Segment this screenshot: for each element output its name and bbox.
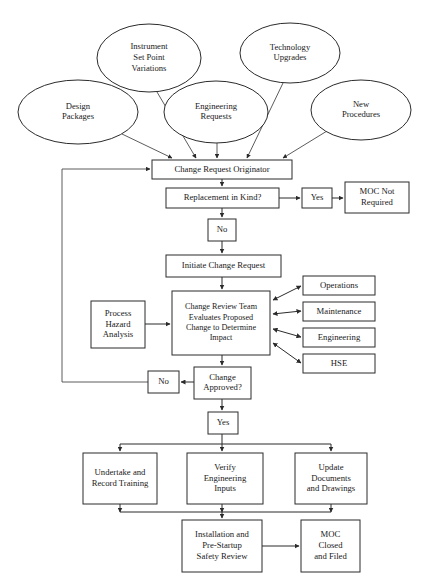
process-node-change-review-team-label: Evaluates Proposed [189,313,253,322]
process-node-update-documents-and-drawings-label: Documents [311,473,351,483]
input-node-new-procedures-label: Procedures [342,109,381,119]
process-node-change-request-originator[interactable]: Change Request Originator [152,160,292,179]
process-node-moc-not-required-label: MOC Not [360,186,396,196]
process-node-engineering[interactable]: Engineering [303,328,375,347]
process-node-process-hazard-analysis-label: Process [105,308,132,318]
process-node-engineering-label: Engineering [318,332,361,342]
input-node-instrument-set-point-variations-label: Set Point [133,52,165,62]
process-node-undertake-and-record-training[interactable]: Undertake andRecord Training [83,453,157,504]
process-node-change-review-team-label: Change to Determine [186,323,256,332]
edge-review-team-hse [273,343,301,363]
process-node-change-review-team[interactable]: Change Review TeamEvaluates ProposedChan… [172,291,270,355]
process-node-change-review-team-label: Change Review Team [185,302,258,311]
input-node-design-packages-label: Design [66,101,91,111]
shapes-layer: DesignPackagesInstrumentSet PointVariati… [18,23,411,572]
edge-design-packages-to-originator [122,134,172,158]
input-node-instrument-set-point-variations[interactable]: InstrumentSet PointVariations [97,24,201,92]
process-node-process-hazard-analysis-label: Hazard [105,319,131,329]
input-node-engineering-requests-label: Engineering [195,101,238,111]
input-node-new-procedures[interactable]: NewProcedures [311,80,411,140]
process-node-initiate-change-request[interactable]: Initiate Change Request [166,255,281,277]
edge-new-procedures-to-originator [283,131,327,158]
process-node-installation-and-pre-startup-safety-review-label: Installation and [195,529,249,539]
input-node-new-procedures-label: New [353,99,370,109]
edge-no-feedback-loop [62,169,150,382]
process-node-verify-engineering-inputs[interactable]: VerifyEngineeringInputs [187,453,263,504]
process-node-replacement-in-kind-label: Replacement in Kind? [184,192,262,202]
process-node-yes-replacement-label: Yes [311,192,324,202]
flowchart-canvas: DesignPackagesInstrumentSet PointVariati… [0,0,425,583]
process-node-process-hazard-analysis[interactable]: ProcessHazardAnalysis [91,301,145,348]
process-node-no-replacement-label: No [217,224,228,234]
process-node-change-approved-label: Change [209,372,236,382]
edge-review-team-maintenance [273,311,301,314]
process-node-update-documents-and-drawings[interactable]: UpdateDocumentsand Drawings [295,453,367,504]
process-node-moc-not-required[interactable]: MOC NotRequired [345,182,409,213]
process-node-installation-and-pre-startup-safety-review[interactable]: Installation andPre-StartupSafety Review [182,520,262,572]
process-node-change-review-team-label: Impact [210,333,233,342]
process-node-installation-and-pre-startup-safety-review-label: Safety Review [197,551,249,561]
process-node-operations-label: Operations [320,280,359,290]
process-node-moc-not-required-label: Required [361,197,394,207]
input-node-engineering-requests-label: Requests [200,111,232,121]
input-node-design-packages-label: Packages [62,111,95,121]
process-node-undertake-and-record-training-label: Record Training [92,478,149,488]
process-node-yes-replacement[interactable]: Yes [302,188,332,208]
input-node-engineering-requests[interactable]: EngineeringRequests [164,81,268,143]
process-node-update-documents-and-drawings-label: Update [318,462,343,472]
process-node-no-approved-label: No [158,376,169,386]
process-node-hse[interactable]: HSE [303,354,375,373]
process-node-change-approved[interactable]: ChangeApproved? [194,367,251,399]
input-node-instrument-set-point-variations-label: Variations [132,63,167,73]
moc-flowchart: DesignPackagesInstrumentSet PointVariati… [0,0,425,583]
process-node-operations[interactable]: Operations [303,276,375,295]
process-node-no-replacement[interactable]: No [208,219,236,241]
process-node-update-documents-and-drawings-label: and Drawings [307,483,356,493]
process-node-moc-closed-and-filed-label: and Filed [314,551,347,561]
input-node-technology-upgrades[interactable]: TechnologyUpgrades [240,23,340,83]
process-node-initiate-change-request-label: Initiate Change Request [182,260,266,270]
edge-review-team-engineering [273,329,301,337]
process-node-verify-engineering-inputs-label: Verify [214,462,236,472]
process-node-installation-and-pre-startup-safety-review-label: Pre-Startup [202,540,242,550]
process-node-verify-engineering-inputs-label: Engineering [204,473,247,483]
process-node-verify-engineering-inputs-label: Inputs [214,483,236,493]
process-node-hse-label: HSE [331,358,347,368]
input-node-technology-upgrades-label: Technology [270,42,311,52]
input-node-technology-upgrades-label: Upgrades [274,52,308,62]
input-node-design-packages[interactable]: DesignPackages [18,80,138,144]
process-node-yes-approved[interactable]: Yes [208,412,238,434]
process-node-change-request-originator-label: Change Request Originator [174,164,269,174]
process-node-moc-closed-and-filed-label: Closed [318,540,343,550]
process-node-process-hazard-analysis-label: Analysis [103,329,134,339]
process-node-maintenance[interactable]: Maintenance [303,302,375,321]
process-node-undertake-and-record-training-label: Undertake and [95,467,147,477]
process-node-yes-approved-label: Yes [217,417,230,427]
process-node-no-approved[interactable]: No [148,371,179,393]
process-node-moc-closed-and-filed-label: MOC [321,529,341,539]
process-node-moc-closed-and-filed[interactable]: MOCClosedand Filed [301,520,360,572]
process-node-change-approved-label: Approved? [203,382,242,392]
process-node-maintenance-label: Maintenance [317,306,362,316]
process-node-replacement-in-kind[interactable]: Replacement in Kind? [166,188,279,208]
input-node-instrument-set-point-variations-label: Instrument [130,41,168,51]
edge-review-team-operations [273,286,301,300]
